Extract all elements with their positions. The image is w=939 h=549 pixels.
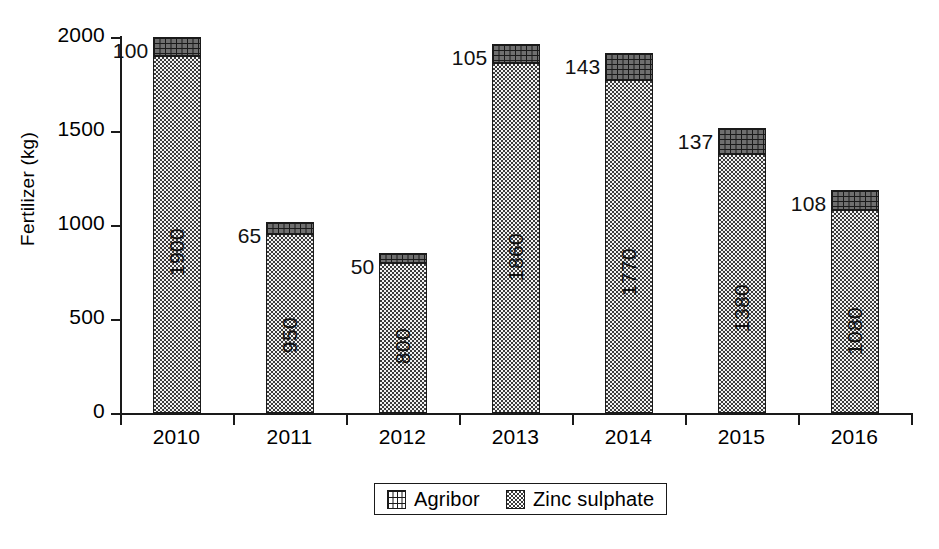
bar-value-label-zinc-sulphate-2013: 1860 xyxy=(504,233,528,281)
bar-segment-agribor-2012 xyxy=(379,253,427,262)
legend-swatch-agribor-icon xyxy=(387,490,406,509)
bar-value-label-agribor-2015: 137 xyxy=(642,130,714,154)
bar-2016: 1080 xyxy=(831,190,879,413)
bar-segment-agribor-2011 xyxy=(266,222,314,234)
x-axis-tick xyxy=(685,415,687,425)
x-axis-tick xyxy=(911,415,913,425)
legend-item-agribor[interactable]: Agribor xyxy=(387,488,480,511)
y-axis-tick-label: 1500 xyxy=(57,117,105,141)
bar-value-label-agribor-2014: 143 xyxy=(529,55,601,79)
legend-label-agribor: Agribor xyxy=(414,488,480,511)
bar-2015: 1380 xyxy=(718,128,766,413)
y-axis-tick-label: 1000 xyxy=(57,211,105,235)
legend-label-zinc-sulphate: Zinc sulphate xyxy=(533,488,655,511)
x-axis-tick-label: 2012 xyxy=(346,425,459,449)
bar-value-label-zinc-sulphate-2011: 950 xyxy=(278,317,302,353)
bar-segment-zinc-sulphate-2016: 1080 xyxy=(831,210,879,413)
bar-value-label-agribor-2013: 105 xyxy=(416,46,488,70)
legend: Agribor Zinc sulphate xyxy=(374,483,667,515)
x-axis-line xyxy=(120,413,913,415)
y-axis-tick xyxy=(111,131,120,133)
bar-value-label-zinc-sulphate-2012: 800 xyxy=(391,328,415,364)
y-axis-tick xyxy=(111,413,120,415)
x-axis-tick-label: 2014 xyxy=(572,425,685,449)
bar-2013: 1860 xyxy=(492,44,540,413)
y-axis-tick xyxy=(111,225,120,227)
bar-segment-agribor-2015 xyxy=(718,128,766,154)
bar-value-label-zinc-sulphate-2014: 1770 xyxy=(617,248,641,296)
bar-segment-zinc-sulphate-2012: 800 xyxy=(379,263,427,413)
bar-segment-zinc-sulphate-2013: 1860 xyxy=(492,63,540,413)
legend-item-zinc-sulphate[interactable]: Zinc sulphate xyxy=(506,488,655,511)
x-axis-tick xyxy=(233,415,235,425)
bar-segment-agribor-2014 xyxy=(605,53,653,80)
bar-value-label-agribor-2010: 100 xyxy=(77,39,149,63)
x-axis-tick-label: 2011 xyxy=(233,425,346,449)
bar-segment-agribor-2016 xyxy=(831,190,879,210)
legend-swatch-zinc-sulphate-icon xyxy=(506,490,525,509)
x-axis-tick xyxy=(798,415,800,425)
bar-2014: 1770 xyxy=(605,53,653,413)
chart-figure: Fertilizer (kg) 2000 1500 1000 500 0 201… xyxy=(0,0,939,549)
x-axis-tick xyxy=(459,415,461,425)
bar-segment-agribor-2010 xyxy=(153,37,201,56)
x-axis-tick-label: 2016 xyxy=(798,425,911,449)
x-axis-tick xyxy=(346,415,348,425)
y-axis-tick-label: 500 xyxy=(69,305,105,329)
bar-value-label-agribor-2016: 108 xyxy=(755,192,827,216)
bar-value-label-zinc-sulphate-2010: 1900 xyxy=(165,228,189,276)
bar-value-label-agribor-2012: 50 xyxy=(303,255,375,279)
x-axis-tick xyxy=(572,415,574,425)
x-axis-tick-label: 2015 xyxy=(685,425,798,449)
y-axis-title: Fertilizer (kg) xyxy=(17,99,39,279)
bar-2012: 800 xyxy=(379,253,427,413)
y-axis-tick xyxy=(111,319,120,321)
y-axis-line xyxy=(120,36,122,415)
x-axis-tick-label: 2010 xyxy=(120,425,233,449)
bar-value-label-agribor-2011: 65 xyxy=(190,224,262,248)
bar-2011: 950 xyxy=(266,222,314,413)
bar-value-label-zinc-sulphate-2015: 1380 xyxy=(730,284,754,332)
x-axis-tick xyxy=(120,415,122,425)
bar-value-label-zinc-sulphate-2016: 1080 xyxy=(843,307,867,355)
y-axis-tick-label: 0 xyxy=(93,399,105,423)
x-axis-tick-label: 2013 xyxy=(459,425,572,449)
